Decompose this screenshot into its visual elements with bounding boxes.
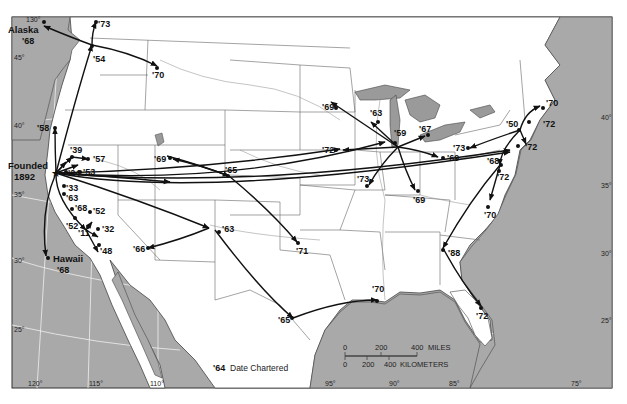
label-alaska: Alaska (8, 24, 39, 35)
scale-miles-400: 400 (411, 343, 424, 352)
lat-label: 35° (601, 182, 612, 189)
lat-label: 40° (601, 114, 612, 121)
label-chapter: '69 (322, 102, 334, 112)
scale-km-0: 0 (343, 360, 347, 369)
label-chapter: '73 (357, 174, 369, 184)
lon-label: 95° (325, 380, 336, 387)
label-chapter: '70 (546, 98, 558, 108)
lon-label: 90° (389, 380, 400, 387)
label-chapter: '69 (413, 195, 425, 205)
scale-miles-0: 0 (343, 343, 347, 352)
lon-label: 110° (150, 380, 164, 387)
lon-label: 85° (449, 380, 460, 387)
label-chapter: '63 (222, 224, 234, 234)
chapter-expansion-map: ★ Alaska '68 Hawaii '68 '73 '54 '70 '58 … (0, 0, 627, 404)
label-chapter: '50 (506, 119, 518, 129)
label-chapter: '70 (152, 70, 164, 80)
label-hawaii: Hawaii (53, 253, 83, 264)
label-chapter: '63 (370, 108, 382, 118)
lon-label: 75° (571, 380, 582, 387)
label-chapter: '70 (372, 284, 384, 294)
label-chapter: '72 (543, 119, 555, 129)
lon-label: 120° (28, 380, 43, 387)
lat-label: 30° (14, 257, 25, 264)
lat-label: 25° (14, 326, 25, 333)
label-chapter: '52 (66, 221, 78, 231)
scale-km-400: 400 (384, 360, 397, 369)
label-chapter: '66 (133, 244, 145, 254)
label-chapter: '33 (66, 183, 78, 193)
lat-label: 35° (14, 191, 25, 198)
label-chapter: '71 (296, 246, 308, 256)
label-chapter: '39 (70, 145, 82, 155)
label-hawaii-year: '68 (57, 265, 69, 275)
label-chapter: '54 (93, 54, 105, 64)
label-chapter: '69 (447, 153, 459, 163)
label-chapter: '65 (278, 315, 290, 325)
label-chapter: '68 (75, 203, 87, 213)
label-chapter: '11 (78, 228, 90, 238)
label-chapter: '52 (93, 206, 105, 216)
label-chapter: '72 (497, 172, 509, 182)
legend-text: Date Chartered (230, 363, 288, 373)
founded-star-icon: ★ (51, 167, 61, 180)
label-chapter: '53 (83, 167, 95, 177)
label-chapter: '72 (476, 311, 488, 321)
founded-label: Founded (8, 160, 48, 171)
legend: '64 Date Chartered (213, 363, 288, 373)
scale-miles-200: 200 (375, 343, 388, 352)
label-chapter: '72 (322, 145, 334, 155)
label-chapter: '70 (484, 210, 496, 220)
label-chapter: '58 (37, 123, 49, 133)
founded-year: 1892 (14, 171, 35, 182)
label-chapter: '68 (487, 156, 499, 166)
label-chapter: '57 (93, 154, 105, 164)
label-chapter: '48 (100, 246, 112, 256)
label-chapter: '65 (225, 165, 237, 175)
lat-label: 45° (14, 54, 25, 61)
lon-label: 115° (89, 380, 103, 387)
scale-km-200: 200 (362, 360, 375, 369)
scale-miles-unit: MILES (428, 343, 451, 352)
legend-sample-year: '64 (213, 363, 225, 373)
lat-label: 25° (601, 317, 612, 324)
label-alaska-year: '68 (22, 36, 34, 46)
label-chapter: '73 (453, 143, 465, 153)
lon-label: 130° (26, 16, 41, 23)
label-chapter: '67 (419, 124, 431, 134)
scale-km-unit: KILOMETERS (400, 360, 448, 369)
lat-label: 40° (14, 122, 25, 129)
label-chapter: '69 (154, 154, 166, 164)
lat-label: 30° (601, 250, 612, 257)
label-chapter: '24 (68, 168, 80, 178)
label-chapter: '72 (525, 142, 537, 152)
label-chapter: '59 (394, 128, 406, 138)
label-chapter: '32 (102, 224, 114, 234)
label-chapter: '73 (98, 19, 110, 29)
label-chapter: '63 (66, 193, 78, 203)
label-chapter: '88 (448, 248, 460, 258)
